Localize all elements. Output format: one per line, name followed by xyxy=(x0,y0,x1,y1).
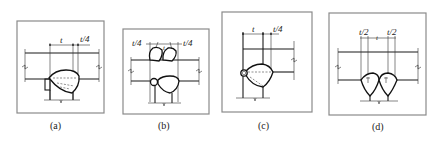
panel-c-caption: (c) xyxy=(258,120,269,132)
dim-t4-label: t/4 xyxy=(273,24,283,34)
panel-a-caption: (a) xyxy=(50,120,61,132)
panel-d-caption: (d) xyxy=(372,121,384,133)
dim-t4-right-label: t/4 xyxy=(183,38,193,48)
panel-b-caption: (b) xyxy=(158,120,170,132)
backing-bar xyxy=(241,70,247,76)
dim-t4-left-label: t/4 xyxy=(132,38,142,48)
panel-d-frame xyxy=(329,13,426,115)
panel-c-frame xyxy=(222,12,312,112)
weld-details-figure: t t/4 (a) t/4 t/4 t xyxy=(0,0,436,142)
dim-t4-label: t/4 xyxy=(80,34,90,44)
panel-d: t/2 t t/2 (d) xyxy=(329,13,426,133)
panel-a: t t/4 (a) xyxy=(17,21,104,132)
panel-c: t t/4 (c) xyxy=(222,12,312,132)
dim-t2-left-label: t/2 xyxy=(359,27,369,37)
dim-t2-right-label: t/2 xyxy=(387,27,397,37)
panel-b: t/4 t/4 t (b) xyxy=(123,29,209,132)
weld-top-left xyxy=(149,47,162,61)
weld-root-small xyxy=(151,79,158,86)
